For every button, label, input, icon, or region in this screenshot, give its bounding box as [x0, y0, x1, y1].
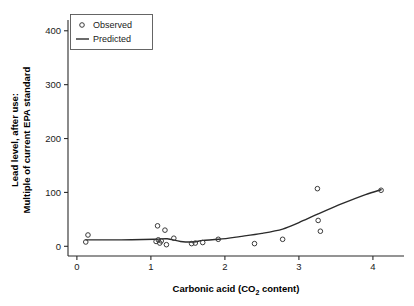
observed-data-point [252, 241, 257, 246]
chart-figure: 0100200300400 01234 Observed Predicted C… [0, 0, 414, 306]
x-tick-label: 1 [148, 261, 153, 272]
y-tick-label: 100 [45, 187, 61, 198]
observed-data-point [318, 229, 323, 234]
observed-data-point [155, 224, 160, 229]
legend-observed-label: Observed [93, 20, 132, 30]
y-axis-title-line1: Lead level, after use: [9, 93, 20, 187]
x-axis-title-tail: content) [259, 283, 299, 294]
observed-data-point [280, 237, 285, 242]
y-tick-label: 400 [45, 25, 61, 36]
legend-predicted-label: Predicted [93, 34, 131, 44]
chart-legend: Observed Predicted [71, 15, 153, 50]
y-axis-ticks: 0100200300400 [45, 25, 68, 252]
x-tick-label: 0 [74, 261, 79, 272]
x-axis-ticks: 01234 [74, 256, 375, 272]
predicted-curve [86, 190, 381, 242]
x-tick-label: 4 [370, 261, 375, 272]
x-tick-label: 3 [296, 261, 301, 272]
x-axis-title: Carbonic acid (CO2 content) [173, 283, 300, 296]
observed-data-point [316, 218, 321, 223]
observed-data-point [164, 242, 169, 247]
observed-data-point [86, 233, 91, 238]
y-axis-title-line2: Multiple of current EPA standard [21, 66, 32, 213]
scatter-plot: 0100200300400 01234 Observed Predicted C… [0, 0, 414, 306]
observed-data-point [315, 186, 320, 191]
x-tick-label: 2 [222, 261, 227, 272]
observed-data-point [163, 228, 168, 233]
x-axis-title-main: Carbonic acid (CO [173, 283, 256, 294]
y-tick-label: 200 [45, 133, 61, 144]
y-tick-label: 0 [56, 241, 61, 252]
y-tick-label: 300 [45, 79, 61, 90]
